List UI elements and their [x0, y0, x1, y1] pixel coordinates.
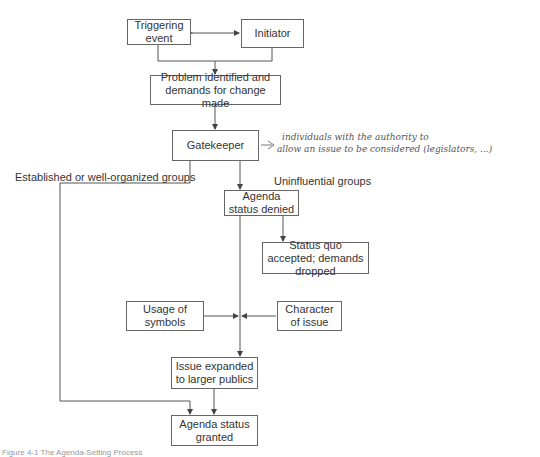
- node-label: Gatekeeper: [187, 139, 244, 152]
- handwritten-note-line1: individuals with the authority to: [282, 131, 429, 143]
- figure-caption: Figure 4-1 The Agenda-Setting Process: [2, 448, 142, 457]
- edge-label-uninfluential: Uninfluential groups: [274, 175, 371, 187]
- node-initiator: Initiator: [241, 19, 304, 48]
- node-label: Usage of symbols: [129, 303, 201, 329]
- node-usage-symbols: Usage of symbols: [126, 301, 204, 331]
- node-label: Issue expanded to larger publics: [174, 360, 255, 386]
- node-agenda-denied: Agenda status denied: [224, 190, 299, 216]
- node-issue-expanded: Issue expanded to larger publics: [171, 357, 258, 389]
- node-status-quo: Status quo accepted; demands dropped: [262, 242, 369, 274]
- node-agenda-granted: Agenda status granted: [171, 415, 258, 446]
- node-character-issue: Character of issue: [277, 301, 342, 331]
- node-label: Agenda status granted: [174, 418, 255, 444]
- node-problem-identified: Problem identified and demands for chang…: [150, 75, 281, 105]
- node-label: Triggering event: [130, 19, 188, 45]
- edge-label-established: Established or well-organized groups: [15, 171, 195, 183]
- node-triggering-event: Triggering event: [127, 19, 191, 45]
- handwritten-note-line2: allow an issue to be considered (legisla…: [277, 143, 492, 155]
- node-label: Problem identified and demands for chang…: [153, 71, 278, 110]
- node-gatekeeper: Gatekeeper: [172, 130, 259, 161]
- node-label: Initiator: [254, 27, 290, 40]
- node-label: Status quo accepted; demands dropped: [265, 239, 366, 278]
- node-label: Agenda status denied: [227, 190, 296, 216]
- node-label: Character of issue: [280, 303, 339, 329]
